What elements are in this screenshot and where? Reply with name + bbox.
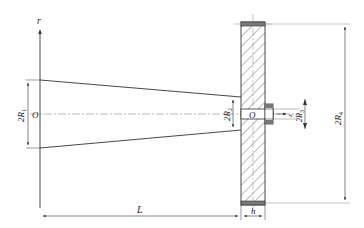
svg-text:2R2: 2R2 — [222, 108, 233, 121]
svg-text:2R3: 2R3 — [295, 110, 305, 122]
z-axis-label: z — [286, 114, 294, 118]
dim-2R2-label: 2R — [222, 111, 232, 122]
svg-text:2R1: 2R1 — [16, 109, 27, 122]
dim-h-label: h — [251, 206, 256, 216]
origin-right-label: O — [249, 110, 256, 120]
dim-h: h — [241, 205, 265, 220]
dim-L-label: L — [136, 204, 143, 215]
r-axis-label: r — [37, 15, 41, 26]
dim-2R4-label: 2R — [333, 115, 343, 126]
dim-2R4: 2R4 — [265, 24, 350, 203]
cone-plate-diagram: r 2R1 O 2R2 O — [0, 0, 364, 228]
tapered-rod — [40, 80, 241, 148]
dim-2R3: 2R3 — [295, 99, 307, 129]
dim-2R2: 2R2 — [222, 100, 233, 127]
origin-left-label: O — [32, 110, 39, 120]
dim-2R3-label: 2R — [295, 113, 304, 122]
dim-L: L — [43, 204, 238, 216]
svg-text:2R4: 2R4 — [333, 112, 344, 125]
dim-2R1-label: 2R — [16, 112, 26, 123]
z-axis: z — [276, 114, 294, 118]
